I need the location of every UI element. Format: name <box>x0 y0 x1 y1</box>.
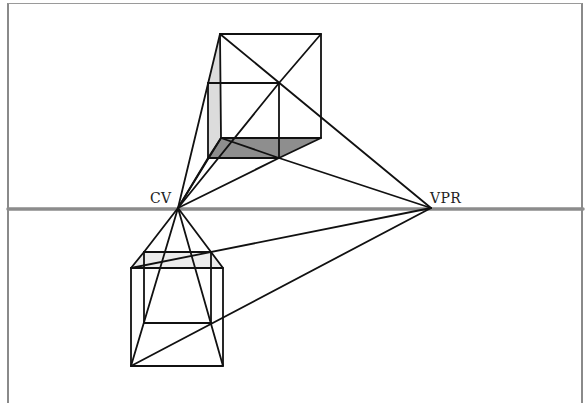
vpr-label: VPR <box>430 190 461 206</box>
cv-label: CV <box>150 190 171 206</box>
lower-cube <box>131 208 431 366</box>
upper-cube-bottom-face-shade <box>208 138 321 158</box>
